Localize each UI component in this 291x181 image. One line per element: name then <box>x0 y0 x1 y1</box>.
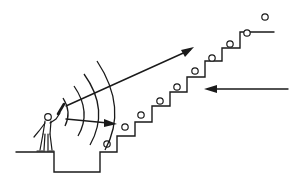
circle-3 <box>138 112 144 118</box>
circle-10 <box>262 14 268 20</box>
circle-4 <box>157 98 163 104</box>
circle-9 <box>244 30 250 36</box>
sound-waves <box>63 61 115 150</box>
circles <box>104 14 268 147</box>
emitter-device-icon <box>58 104 64 114</box>
wave-arc-2 <box>74 86 84 136</box>
short-horizontal-arrow <box>66 119 108 123</box>
wave-arc-4 <box>97 61 115 150</box>
diagram-canvas <box>0 0 291 181</box>
staircase <box>16 32 274 172</box>
long-diagonal-arrowhead-icon <box>181 47 194 57</box>
incoming-arrowhead-icon <box>204 85 217 93</box>
long-diagonal-arrow <box>66 50 190 106</box>
person-figure <box>34 104 64 151</box>
wave-arc-1 <box>63 98 68 126</box>
circle-5 <box>174 84 180 90</box>
wave-arc-3 <box>84 74 99 145</box>
circle-2 <box>122 124 128 130</box>
landing-floor <box>16 32 274 172</box>
circle-7 <box>209 55 215 61</box>
circle-6 <box>192 68 198 74</box>
circle-8 <box>227 41 233 47</box>
person-legs <box>40 134 52 150</box>
person-head <box>45 114 52 121</box>
